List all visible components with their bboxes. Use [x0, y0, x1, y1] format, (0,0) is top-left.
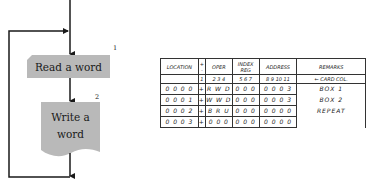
oper-cell: W W D	[205, 95, 232, 106]
oper-cell: 0 0 0	[205, 117, 232, 128]
location-header: LOCATION	[161, 59, 199, 75]
address-cell: 0 0 0 3	[259, 95, 297, 106]
remarks-header: REMARKS	[297, 59, 366, 75]
table-row: 0 0 0 1 + W W D 0 0 0 0 0 0 3 BOX 2	[161, 95, 366, 106]
sign-cell: +	[198, 95, 205, 106]
index-cell: 0 0 0	[232, 106, 259, 117]
location-col-blank	[161, 75, 199, 84]
remarks-cell: BOX 2	[297, 95, 366, 106]
box-2-number: 2	[95, 93, 99, 101]
card-col-row: 1 2 3 4 5 6 7 8 9 10 11 ← CARD COL.	[161, 75, 366, 84]
index-cell: 0 0 0	[232, 84, 259, 95]
card-col-label: ← CARD COL.	[297, 75, 366, 84]
sign-col-number: 1	[198, 75, 205, 84]
table-row: 0 0 0 3 + 0 0 0 0 0 0 0 0 0 0	[161, 117, 366, 128]
coding-sheet: LOCATION +- OPER INDEX REG ADDRESS REMAR…	[160, 58, 368, 128]
oper-header: OPER	[205, 59, 232, 75]
program-table: LOCATION +- OPER INDEX REG ADDRESS REMAR…	[160, 58, 366, 128]
address-cell: 0 0 0 0	[259, 117, 297, 128]
location-cell: 0 0 0 2	[161, 106, 199, 117]
remarks-cell: REPEAT	[297, 106, 366, 117]
flowchart: Read a word 1 Write a word 2	[0, 0, 140, 192]
sign-cell: +	[198, 84, 205, 95]
address-cell: 0 0 0 3	[259, 84, 297, 95]
index-cell: 0 0 0	[232, 95, 259, 106]
box-1-label: Read a word	[35, 61, 102, 73]
header-row: LOCATION +- OPER INDEX REG ADDRESS REMAR…	[161, 59, 366, 75]
index-cell: 0 0 0	[232, 117, 259, 128]
location-cell: 0 0 0 1	[161, 95, 199, 106]
index-reg-header: INDEX REG	[232, 59, 259, 75]
table-row: 0 0 0 2 + B R U 0 0 0 0 0 0 0 REPEAT	[161, 106, 366, 117]
box-1-number: 1	[113, 44, 117, 52]
location-cell: 0 0 0 3	[161, 117, 199, 128]
remarks-cell	[297, 117, 366, 128]
sign-cell: +	[198, 117, 205, 128]
table-row: 0 0 0 0 + R W D 0 0 0 0 0 0 3 BOX 1	[161, 84, 366, 95]
address-header: ADDRESS	[259, 59, 297, 75]
minus-label: -	[201, 67, 203, 73]
location-cell: 0 0 0 0	[161, 84, 199, 95]
sign-cell: +	[198, 106, 205, 117]
address-col-numbers: 8 9 10 11	[259, 75, 297, 84]
box-2-label-line2: word	[57, 128, 84, 140]
oper-cell: B R U	[205, 106, 232, 117]
box-2-label-line1: Write a	[51, 111, 90, 123]
index-col-numbers: 5 6 7	[232, 75, 259, 84]
oper-cell: R W D	[205, 84, 232, 95]
remarks-cell: BOX 1	[297, 84, 366, 95]
sign-header: +-	[198, 59, 205, 75]
oper-col-numbers: 2 3 4	[205, 75, 232, 84]
address-cell: 0 0 0 0	[259, 106, 297, 117]
